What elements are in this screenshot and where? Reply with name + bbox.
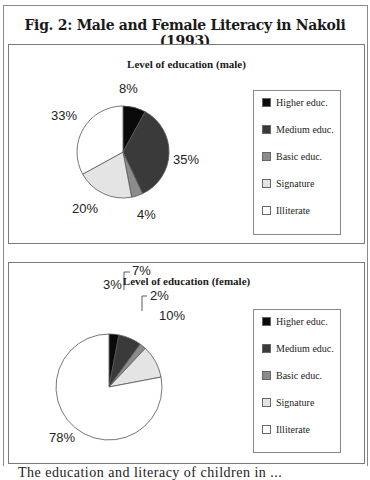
legend-item-illiterate: Illiterate: [262, 424, 310, 435]
male-chart-panel: Level of education (male) 8% 35% 4% 20% …: [8, 44, 365, 244]
female-label-basic: 2%: [150, 288, 169, 303]
legend-item-basic: Basic educ.: [262, 370, 322, 381]
female-label-medium: 7%: [132, 263, 151, 278]
female-legend: Higher educ. Medium educ. Basic educ. Si…: [253, 309, 341, 453]
male-label-signature: 20%: [72, 201, 98, 216]
legend-item-signature: Signature: [262, 397, 314, 408]
body-text-partial: The education and literacy of children i…: [18, 465, 282, 480]
male-label-medium: 35%: [173, 152, 199, 167]
male-chart-title: Level of education (male): [9, 58, 364, 70]
swatch-basic: [262, 371, 271, 380]
female-label-signature: 10%: [159, 308, 185, 323]
female-label-illiterate: 78%: [49, 430, 75, 445]
swatch-medium: [262, 125, 271, 134]
male-label-illiterate: 33%: [51, 108, 77, 123]
swatch-illiterate: [262, 425, 271, 434]
swatch-signature: [262, 179, 271, 188]
legend-item-medium: Medium educ.: [262, 343, 334, 354]
swatch-medium: [262, 344, 271, 353]
swatch-illiterate: [262, 206, 271, 215]
male-label-higher: 8%: [119, 81, 138, 96]
swatch-higher: [262, 317, 271, 326]
legend-item-basic: Basic educ.: [262, 151, 322, 162]
swatch-basic: [262, 152, 271, 161]
swatch-signature: [262, 398, 271, 407]
male-legend: Higher educ. Medium educ. Basic educ. Si…: [253, 90, 341, 235]
legend-item-illiterate: Illiterate: [262, 205, 310, 216]
legend-item-higher: Higher educ.: [262, 97, 328, 108]
legend-item-signature: Signature: [262, 178, 314, 189]
female-label-higher: 3%: [103, 277, 122, 292]
male-pie-chart: [65, 90, 185, 210]
legend-item-higher: Higher educ.: [262, 316, 328, 327]
swatch-higher: [262, 98, 271, 107]
legend-item-medium: Medium educ.: [262, 124, 334, 135]
female-chart-panel: Level of education (female) 3% 7% 2% 10%…: [8, 262, 365, 464]
male-label-basic: 4%: [137, 207, 156, 222]
